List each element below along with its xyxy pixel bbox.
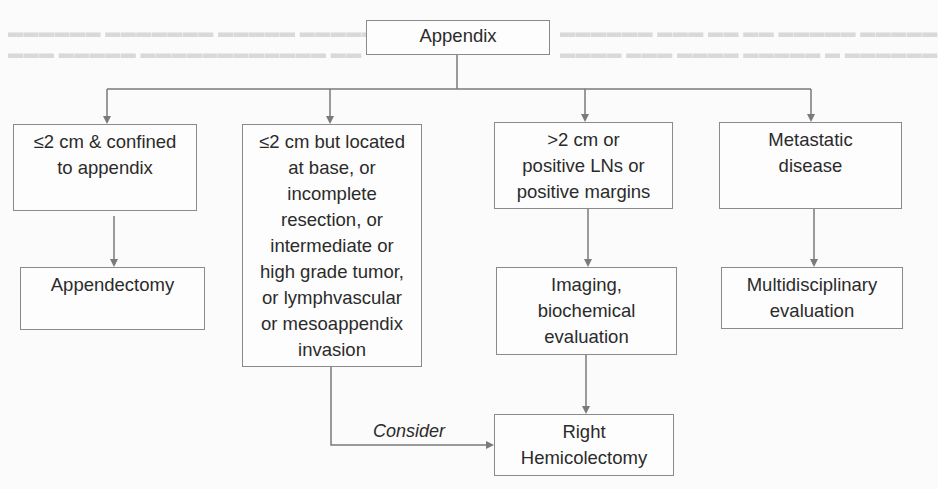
node-imaging-biochemical: Imaging, biochemical evaluation	[496, 267, 677, 355]
node-label: >2 cm or	[547, 127, 619, 153]
node-metastatic: Metastatic disease	[719, 122, 902, 209]
node-appendix: Appendix	[366, 20, 550, 55]
node-label: ≤2 cm but located	[259, 129, 405, 155]
node-label: or mesoappendix	[261, 311, 403, 337]
node-right-hemicolectomy: Right Hemicolectomy	[494, 414, 674, 476]
node-label: invasion	[298, 337, 366, 363]
node-label: Appendectomy	[51, 272, 174, 298]
edge-label-consider: Consider	[373, 421, 445, 442]
node-label: to appendix	[57, 155, 153, 181]
node-label: or lymphvascular	[262, 285, 402, 311]
node-label: Hemicolectomy	[521, 445, 647, 471]
node-appendectomy: Appendectomy	[20, 267, 205, 330]
node-label: evaluation	[544, 324, 628, 350]
node-label: disease	[779, 153, 843, 179]
node-label: incomplete	[287, 181, 376, 207]
node-label: high grade tumor,	[260, 259, 404, 285]
node-small-confined: ≤2 cm & confined to appendix	[13, 124, 197, 211]
node-label: ≤2 cm & confined	[34, 129, 177, 155]
node-label: evaluation	[770, 298, 854, 324]
node-label: resection, or	[281, 207, 383, 233]
node-label: at base, or	[288, 155, 375, 181]
node-label: biochemical	[538, 298, 636, 324]
node-small-high-risk: ≤2 cm but located at base, or incomplete…	[242, 124, 422, 367]
node-label: intermediate or	[270, 233, 393, 259]
node-label: Multidisciplinary	[747, 272, 878, 298]
node-label: Right	[562, 419, 605, 445]
node-label: positive margins	[517, 179, 651, 205]
node-multidisciplinary: Multidisciplinary evaluation	[721, 267, 903, 329]
node-label: Appendix	[419, 23, 496, 49]
node-label: positive LNs or	[522, 153, 644, 179]
node-label: Imaging,	[551, 272, 622, 298]
node-label: Metastatic	[768, 127, 852, 153]
node-large-positive: >2 cm or positive LNs or positive margin…	[494, 122, 673, 209]
